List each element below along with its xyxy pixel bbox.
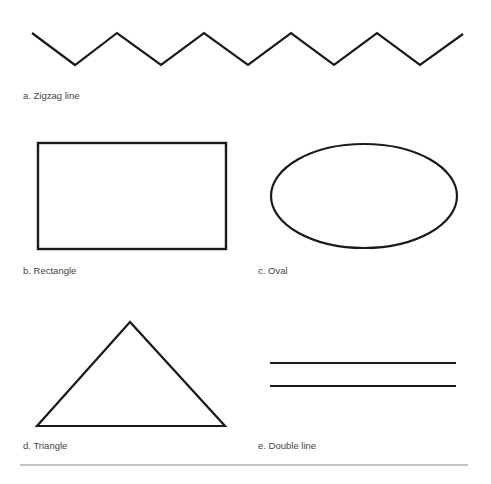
double-line-label: e. Double line [258,441,316,451]
zigzag-line-shape [32,33,463,65]
rectangle-shape [38,143,226,249]
triangle-label: d. Triangle [23,441,67,451]
zigzag-line-label: a. Zigzag line [23,91,80,101]
oval-shape [271,144,457,248]
rectangle-label: b. Rectangle [23,266,76,276]
triangle-shape [37,322,225,426]
shapes-figure [0,0,491,484]
oval-label: c. Oval [258,266,288,276]
